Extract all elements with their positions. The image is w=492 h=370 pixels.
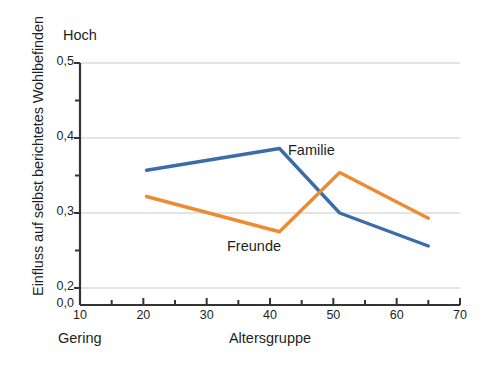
y-tick-label: 0,5 (40, 54, 74, 68)
x-tick-label: 30 (187, 308, 227, 322)
x-tick-label: 50 (313, 308, 353, 322)
y-tick-label: 0,4 (40, 129, 74, 143)
x-tick-label: 20 (123, 308, 163, 322)
axis-lines (80, 63, 460, 305)
x-tick-label: 40 (250, 308, 290, 322)
data-series (147, 149, 429, 247)
series-line-freunde (147, 173, 429, 232)
series-label-freunde: Freunde (227, 238, 281, 254)
y-tick-label: 0,3 (40, 204, 74, 218)
x-tick-label: 10 (60, 308, 100, 322)
x-tick-label: 70 (440, 308, 480, 322)
y-tick-label: 0,2 (40, 279, 74, 293)
axis-ticks (74, 63, 460, 305)
gridlines (80, 63, 460, 288)
chart-figure: Einfluss auf selbst berichtetes Wohlbefi… (0, 0, 492, 370)
series-label-familie: Familie (288, 142, 335, 158)
x-tick-label: 60 (377, 308, 417, 322)
